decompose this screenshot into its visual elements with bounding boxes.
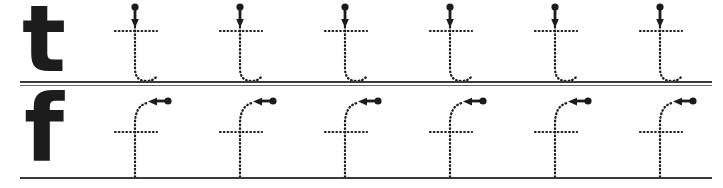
stroke-arrow-f — [148, 97, 172, 105]
tracing-guide-f-1[interactable] — [95, 94, 199, 188]
baseline-rule-f — [20, 177, 712, 179]
stroke-stem-hook-t — [660, 27, 681, 81]
practice-row-f: f — [0, 94, 723, 188]
baseline-rule-t-lower — [20, 85, 712, 86]
tracing-guide-f-5[interactable] — [515, 94, 619, 188]
tracing-worksheet: t — [0, 0, 723, 188]
tracing-guide-t-1[interactable] — [95, 0, 199, 94]
stroke-stem-hook-t — [450, 27, 471, 81]
stroke-stem-hook-t — [135, 27, 156, 81]
tracing-guide-t-4[interactable] — [410, 0, 514, 94]
stroke-stem-hook-f — [345, 103, 357, 177]
stroke-stem-hook-t — [345, 27, 366, 81]
stroke-stem-hook-t — [240, 27, 261, 81]
stroke-arrow-f — [463, 97, 487, 105]
baseline-rule-t-upper — [20, 81, 712, 83]
practice-row-t: t — [0, 0, 723, 94]
stroke-arrow-t — [446, 3, 454, 28]
stroke-arrow-t — [236, 3, 244, 28]
stroke-arrow-t — [131, 3, 139, 28]
stroke-arrow-f — [673, 97, 697, 105]
tracing-guide-t-2[interactable] — [200, 0, 304, 94]
model-letter-f: f — [24, 84, 64, 176]
tracing-guide-f-2[interactable] — [200, 94, 304, 188]
tracing-guide-f-4[interactable] — [410, 94, 514, 188]
tracing-guide-t-5[interactable] — [515, 0, 619, 94]
stroke-stem-hook-f — [450, 103, 462, 177]
tracing-guide-f-3[interactable] — [305, 94, 409, 188]
model-letter-t: t — [22, 0, 66, 86]
stroke-arrow-t — [551, 3, 559, 28]
stroke-stem-hook-f — [135, 103, 147, 177]
stroke-arrow-t — [656, 3, 664, 28]
stroke-arrow-f — [253, 97, 277, 105]
stroke-stem-hook-f — [555, 103, 567, 177]
stroke-arrow-f — [568, 97, 592, 105]
tracing-guide-f-6[interactable] — [620, 94, 723, 188]
stroke-stem-hook-f — [240, 103, 252, 177]
tracing-guide-t-3[interactable] — [305, 0, 409, 94]
stroke-arrow-f — [358, 97, 382, 105]
stroke-arrow-t — [341, 3, 349, 28]
tracing-guide-t-6[interactable] — [620, 0, 723, 94]
stroke-stem-hook-t — [555, 27, 576, 81]
stroke-stem-hook-f — [660, 103, 672, 177]
